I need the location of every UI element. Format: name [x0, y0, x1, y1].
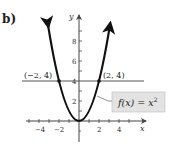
y-tick-label: 4	[72, 78, 77, 86]
point-2-4	[97, 79, 101, 83]
x-tick-label: −2	[54, 126, 64, 134]
function-label: f(x) = x2	[117, 96, 158, 108]
x-tick-label: −4	[35, 126, 46, 134]
point-neg2-4	[57, 79, 61, 83]
leader-line	[97, 96, 112, 101]
y-tick-label: 2	[72, 98, 76, 106]
x-tick-label: 2	[97, 126, 101, 134]
point-label-left: (−2, 4)	[24, 71, 52, 80]
x-tick-label: 4	[117, 126, 122, 134]
function-label-exponent: 2	[154, 96, 158, 103]
point-label-right: (2, 4)	[103, 71, 125, 80]
y-tick-label: 6	[72, 58, 77, 66]
graph: −4 −2 2 4 2 4 6 8 x y (−2, 4) (2, 4) f(x…	[0, 0, 174, 144]
function-label-base: f(x) = x	[117, 97, 154, 108]
y-axis-label: y	[68, 12, 74, 21]
y-tick-label: 8	[72, 38, 76, 46]
x-axis-label: x	[140, 124, 145, 133]
